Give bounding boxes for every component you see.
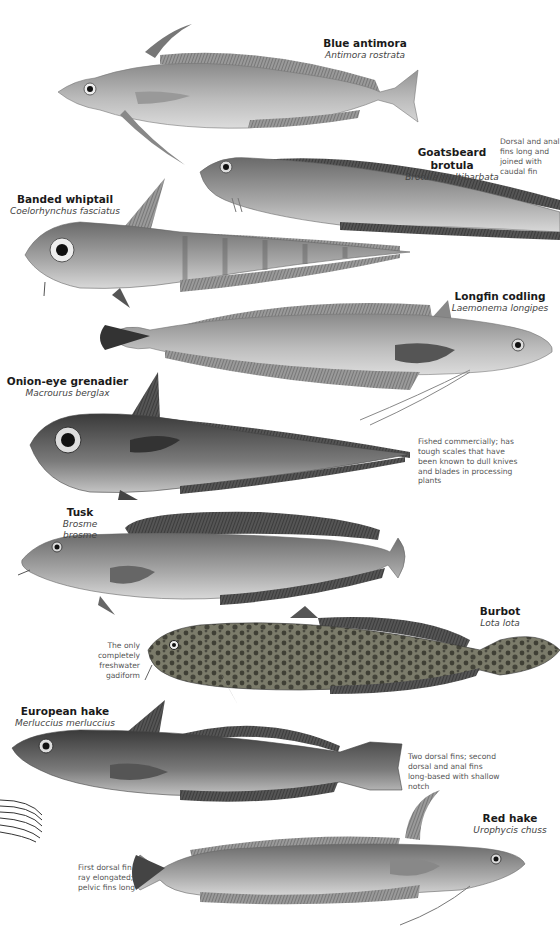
note-burbot: The only completely freshwater gadiform bbox=[70, 641, 140, 680]
scientific-name: Brosme brosme bbox=[45, 519, 115, 542]
common-name: Red hake bbox=[470, 812, 550, 825]
note-red-hake: First dorsal fin ray elongated; pelvic f… bbox=[78, 863, 136, 893]
scientific-name: Laemonema longipes bbox=[440, 303, 560, 314]
scientific-name: Coelorhynchus fasciatus bbox=[10, 206, 120, 217]
common-name: Longfin codling bbox=[440, 290, 560, 303]
common-name: European hake bbox=[10, 705, 120, 718]
species-label-longfin-codling: Longfin codling Laemonema longipes bbox=[440, 290, 560, 314]
scientific-name: Brotula multibarbata bbox=[396, 172, 508, 183]
species-label-banded-whiptail: Banded whiptail Coelorhynchus fasciatus bbox=[10, 193, 120, 217]
species-label-onion-eye-grenadier: Onion-eye grenadier Macrourus berglax bbox=[5, 375, 130, 399]
species-label-red-hake: Red hake Urophycis chuss bbox=[470, 812, 550, 836]
fish-red-hake bbox=[132, 790, 525, 925]
common-name: Onion-eye grenadier bbox=[5, 375, 130, 388]
fin-fragment-left-edge bbox=[0, 800, 42, 842]
note-european-hake: Two dorsal fins; second dorsal and anal … bbox=[408, 752, 500, 791]
common-name: Banded whiptail bbox=[10, 193, 120, 206]
note-goatsbeard-brotula: Dorsal and anal fins long and joined wit… bbox=[500, 137, 560, 176]
scientific-name: Lota lota bbox=[470, 618, 530, 629]
common-name: Burbot bbox=[470, 605, 530, 618]
species-label-european-hake: European hake Merluccius merluccius bbox=[10, 705, 120, 729]
species-label-blue-antimora: Blue antimora Antimora rostrata bbox=[300, 37, 430, 61]
common-name: Tusk bbox=[45, 506, 115, 519]
note-onion-eye-grenadier: Fished commercially; has tough scales th… bbox=[418, 437, 526, 486]
fish-longfin-codling bbox=[100, 300, 552, 425]
scientific-name: Urophycis chuss bbox=[470, 825, 550, 836]
scientific-name: Macrourus berglax bbox=[5, 388, 130, 399]
scientific-name: Merluccius merluccius bbox=[10, 718, 120, 729]
species-label-burbot: Burbot Lota lota bbox=[470, 605, 530, 629]
common-name: Blue antimora bbox=[300, 37, 430, 50]
species-label-goatsbeard-brotula: Goatsbeard brotula Brotula multibarbata bbox=[396, 146, 508, 184]
scientific-name: Antimora rostrata bbox=[300, 50, 430, 61]
species-label-tusk: Tusk Brosme brosme bbox=[45, 506, 115, 542]
common-name: Goatsbeard brotula bbox=[396, 146, 508, 172]
